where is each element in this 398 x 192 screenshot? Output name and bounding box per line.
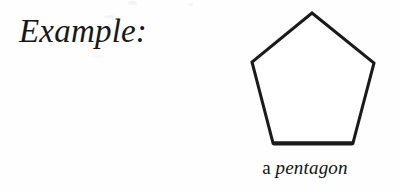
caption-article: a bbox=[262, 157, 270, 178]
pentagon-outline bbox=[252, 13, 374, 143]
pentagon-figure: a pentagon bbox=[240, 4, 388, 188]
figure-caption: a pentagon bbox=[240, 156, 370, 180]
caption-term: pentagon bbox=[275, 157, 347, 178]
example-label: Example: bbox=[19, 13, 147, 49]
pentagon-shape-icon bbox=[240, 4, 388, 154]
scan-artifact-icon bbox=[128, 1, 137, 5]
figure-page: Example: a pentagon bbox=[0, 0, 398, 192]
scan-artifact-icon bbox=[188, 3, 194, 6]
scan-artifact-icon bbox=[92, 54, 104, 58]
